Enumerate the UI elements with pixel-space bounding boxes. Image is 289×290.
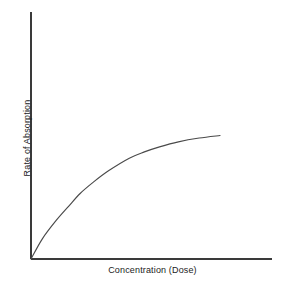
y-axis-label: Rate of Absorption [22,58,32,218]
chart-figure: Concentration (Dose) Rate of Absorption [0,0,289,290]
saturation-curve [31,136,220,259]
plot-area [0,0,289,290]
x-axis-label: Concentration (Dose) [0,265,289,275]
